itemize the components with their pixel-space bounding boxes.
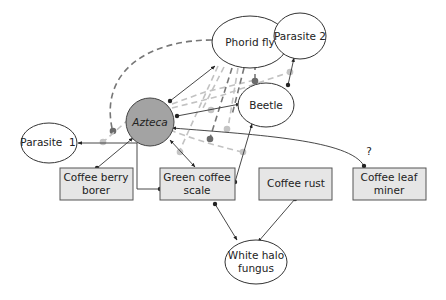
node-label-line1: White halo	[228, 249, 284, 261]
node-label: Parasite 1	[20, 136, 75, 148]
edge-end-dot	[175, 114, 179, 118]
interaction-dot	[207, 136, 214, 143]
interaction-dot	[177, 149, 184, 156]
node-label: Beetle	[249, 99, 283, 111]
node-beetle: Beetle	[238, 83, 294, 127]
direct-interactions	[78, 58, 366, 242]
node-label-line1: Coffee leaf	[361, 171, 418, 183]
edge-scale-fungus	[215, 204, 237, 240]
interaction-dot	[252, 78, 259, 85]
node-white-halo-fungus: White halo fungus	[225, 240, 287, 284]
node-azteca: Azteca	[126, 98, 174, 146]
edge-end-dot	[213, 202, 217, 206]
node-label-line2: miner	[374, 184, 405, 196]
node-label: Phorid fly	[225, 36, 274, 48]
edge-miner-azteca	[172, 128, 364, 166]
node-green-coffee-scale: Green coffee scale	[160, 168, 235, 200]
node-label-line1: Coffee berry	[63, 171, 128, 183]
edge-scale-beetle	[235, 124, 252, 182]
node-label-line2: scale	[183, 184, 210, 196]
node-coffee-leaf-miner: Coffee leaf miner	[353, 168, 426, 200]
interaction-dot	[100, 139, 107, 146]
node-parasite-2: Parasite 2	[274, 13, 326, 59]
edge-end-dot	[168, 99, 172, 103]
node-label: Azteca	[131, 116, 167, 128]
interaction-dot	[224, 126, 231, 133]
node-parasite-1: Parasite 1	[20, 123, 77, 163]
interaction-network-diagram: ? Phorid fly Parasite 2 Beetle Azteca Pa…	[0, 0, 446, 300]
edge-rust-fungus	[258, 199, 295, 242]
edge-end-dot	[286, 83, 290, 87]
uncertain-interaction-label: ?	[366, 145, 372, 157]
node-label-line2: fungus	[238, 262, 274, 274]
node-label-line1: Green coffee	[163, 171, 231, 183]
node-coffee-berry-borer: Coffee berry borer	[60, 168, 133, 200]
node-label-line2: borer	[82, 184, 111, 196]
node-label: Coffee rust	[267, 177, 325, 189]
node-coffee-rust: Coffee rust	[259, 168, 332, 200]
node-label: Parasite 2	[274, 30, 326, 42]
